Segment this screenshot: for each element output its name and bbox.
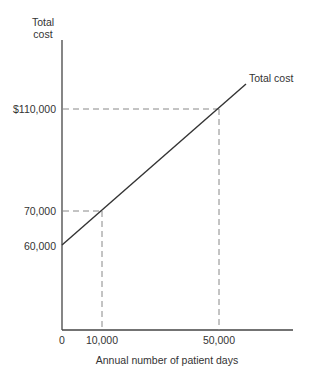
y-tick-60000: 60,000 — [24, 240, 56, 252]
x-tick-50000: 50,000 — [203, 334, 235, 346]
y-tick-70000: 70,000 — [24, 205, 56, 217]
y-tick-110000: $110,000 — [13, 103, 56, 115]
x-tick-0: 0 — [59, 334, 65, 346]
y-axis-label-line2: cost — [33, 28, 52, 40]
total-cost-line — [62, 84, 246, 245]
series-label: Total cost — [249, 72, 293, 84]
total-cost-chart: Total cost Total cost $110,000 70,000 60… — [0, 0, 309, 382]
y-axis-label-line1: Total — [32, 16, 54, 28]
x-axis-label: Annual number of patient days — [96, 354, 238, 366]
x-tick-10000: 10,000 — [86, 334, 118, 346]
